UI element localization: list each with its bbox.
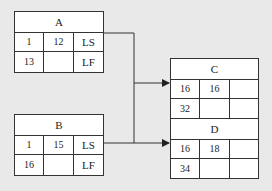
node-d-empty <box>200 159 230 178</box>
node-d-ls <box>230 139 258 159</box>
node-c-empty <box>200 99 230 119</box>
node-c-duration: 16 <box>200 79 230 99</box>
node-d-duration: 18 <box>200 139 230 159</box>
node-c-es: 16 <box>171 79 200 99</box>
node-d-es: 16 <box>171 139 200 159</box>
node-d-ef: 34 <box>171 159 200 178</box>
node-a-duration: 12 <box>44 32 74 52</box>
node-cd-stack: C 16 16 32 D 16 18 34 <box>170 58 259 179</box>
node-a-lf: LF <box>74 52 103 72</box>
node-c-ls <box>230 79 258 99</box>
node-b-title: B <box>15 115 103 136</box>
node-c-ef: 32 <box>171 99 200 119</box>
node-c-lf <box>230 99 258 119</box>
node-b: B 1 15 LS 16 LF <box>14 114 104 176</box>
node-a: A 1 12 LS 13 LF <box>14 11 104 73</box>
node-a-es: 1 <box>15 32 44 52</box>
node-a-title: A <box>15 12 103 33</box>
node-b-ls: LS <box>74 135 103 155</box>
node-b-empty <box>44 155 74 175</box>
node-c-title: C <box>171 59 258 80</box>
node-a-ef: 13 <box>15 52 44 72</box>
node-d-lf <box>230 159 258 178</box>
node-b-es: 1 <box>15 135 44 155</box>
node-b-duration: 15 <box>44 135 74 155</box>
node-a-ls: LS <box>74 32 103 52</box>
edge-a-trunk <box>103 33 134 143</box>
node-b-ef: 16 <box>15 155 44 175</box>
node-d-title: D <box>171 119 258 140</box>
node-a-empty <box>44 52 74 72</box>
node-b-lf: LF <box>74 155 103 175</box>
